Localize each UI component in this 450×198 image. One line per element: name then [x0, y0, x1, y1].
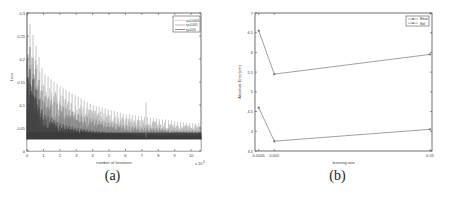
- y-tick-label: 6.5: [247, 30, 253, 35]
- x-tick-label: 8: [157, 153, 160, 158]
- x-tick-label: 1: [42, 153, 45, 158]
- y-tick-label: 0.15: [17, 80, 26, 85]
- loss-chart: 01234567891000.050.10.150.20.250.3number…: [0, 0, 225, 165]
- legend-entry: η=0.05: [186, 28, 196, 32]
- data-marker: [257, 29, 260, 32]
- x-axis-label: number of iterations: [96, 160, 131, 165]
- data-marker: [273, 73, 276, 76]
- x-tick-label: 5: [108, 153, 111, 158]
- data-marker: [429, 53, 432, 56]
- data-marker: [429, 128, 432, 131]
- y-tick-label: 6: [251, 50, 254, 55]
- legend-entry: Std: [420, 22, 425, 26]
- y-tick-label: 7: [251, 11, 254, 16]
- y-tick-label: 5: [251, 89, 254, 94]
- x-tick-label: 3: [75, 153, 78, 158]
- data-marker: [273, 140, 276, 143]
- x-tick-label: 7: [141, 153, 144, 158]
- y-tick-label: 0.1: [19, 103, 25, 108]
- x-axis-label: learning rate: [332, 160, 355, 165]
- x-tick-label: 0.0005: [253, 153, 266, 158]
- y-axis-label: Absolute Error(cm): [237, 65, 242, 99]
- x-tick-label: 0.05: [426, 153, 435, 158]
- data-marker: [257, 106, 260, 109]
- caption-a: (a): [0, 168, 225, 184]
- legend-a: η=0.0005η=0.005η=0.05: [173, 16, 200, 32]
- axes-box-b: [255, 13, 432, 151]
- y-tick-label: 4: [251, 129, 254, 134]
- legend-b: MeanStd: [406, 16, 429, 26]
- y-tick-label: 0.2: [19, 57, 25, 62]
- caption-b: (b): [225, 168, 450, 184]
- panel-a: 01234567891000.050.10.150.20.250.3number…: [0, 0, 225, 198]
- svg-text:4: 4: [203, 160, 205, 164]
- y-axis-label: Loss: [9, 73, 14, 81]
- x-tick-label: 6: [124, 153, 127, 158]
- series-line-std: [259, 108, 430, 142]
- series-line-mean: [259, 31, 430, 74]
- y-tick-label: 0.3: [19, 11, 25, 16]
- error-chart: 76.565.554.543.50.00050.0050.05learning …: [225, 0, 450, 165]
- y-tick-label: 5.5: [247, 70, 253, 75]
- panel-b: 76.565.554.543.50.00050.0050.05learning …: [225, 0, 450, 198]
- x-tick-label: 0: [26, 153, 29, 158]
- legend-entry: η=0.0005: [186, 19, 200, 23]
- x-tick-label: 4: [92, 153, 95, 158]
- y-tick-label: 0.25: [17, 34, 26, 39]
- y-tick-label: 0.05: [17, 126, 26, 131]
- x-tick-label: 0.005: [269, 153, 280, 158]
- x-tick-label: 9: [174, 153, 177, 158]
- loss-floor-band: [27, 133, 201, 140]
- legend-entry: η=0.005: [186, 23, 198, 27]
- x-tick-label: 10: [189, 153, 194, 158]
- y-tick-label: 4.5: [247, 109, 253, 114]
- x-tick-label: 2: [59, 153, 62, 158]
